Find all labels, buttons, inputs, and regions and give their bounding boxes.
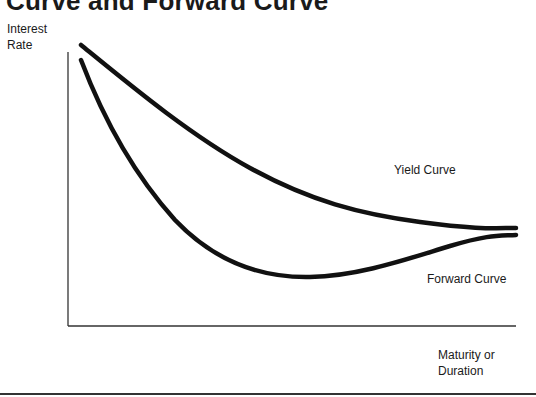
yield-curve-label: Yield Curve bbox=[394, 163, 456, 177]
x-axis-label: Maturity or Duration bbox=[438, 347, 495, 379]
x-axis-label-line2: Duration bbox=[438, 363, 495, 379]
x-axis-label-line1: Maturity or bbox=[438, 347, 495, 363]
bottom-divider bbox=[0, 393, 536, 395]
forward-curve-label: Forward Curve bbox=[427, 272, 506, 286]
yield-curve-line bbox=[81, 45, 516, 228]
plot-area bbox=[0, 0, 536, 397]
